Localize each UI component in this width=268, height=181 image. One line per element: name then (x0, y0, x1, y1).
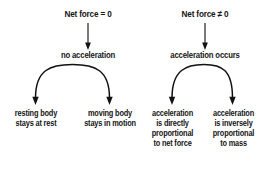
node-directly-proportional: acceleration is directly proportional to… (148, 108, 197, 149)
node-inversely-proportional: acceleration is inversely proportional t… (209, 108, 258, 149)
stem-arrow-left-root (85, 23, 91, 50)
node-no-acceleration: no acceleration (36, 50, 139, 61)
arc-connector-left (32, 65, 112, 106)
node-moving-body: moving body stays in motion (81, 108, 139, 128)
node-resting-body: resting body stays at rest (8, 108, 63, 128)
node-net-force-nonzero: Net force ≠ 0 (153, 8, 256, 19)
connector-layer (0, 0, 268, 181)
stem-arrow-right-root (202, 23, 208, 50)
node-acceleration-occurs: acceleration occurs (153, 50, 258, 61)
arc-connector-right (169, 65, 236, 106)
node-net-force-zero: Net force = 0 (36, 8, 139, 19)
newtons-laws-flowchart: Net force = 0 Net force ≠ 0 no accelerat… (0, 0, 268, 181)
